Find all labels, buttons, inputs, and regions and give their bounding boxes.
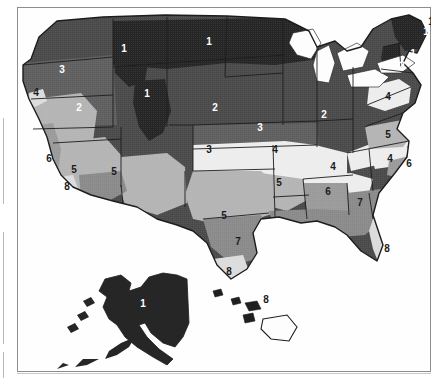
zone-label-arkansas-5: 5 [276, 177, 282, 188]
zone-label-pacific-northwest-3: 3 [59, 64, 65, 75]
zone-label-hawaii-8: 8 [263, 294, 269, 305]
zone-label-gulfcoast-8: 8 [226, 266, 232, 277]
zone-label-wyoming-1: 1 [144, 88, 150, 99]
zone-label-missouri-4: 4 [272, 144, 278, 155]
zone-label-nebraska-2: 2 [212, 102, 218, 113]
zone-label-illinois-2: 2 [321, 109, 327, 120]
zone-label-kentucky-4: 4 [330, 161, 336, 172]
zone-label-alabama-6: 6 [325, 186, 331, 197]
scan-artifact-line [3, 118, 4, 204]
zone-label-newengland-1: 1 [410, 48, 416, 59]
zone-label-newmexico-5: 5 [111, 166, 117, 177]
zone-label-kansas-3: 3 [257, 122, 263, 133]
scan-artifact-line [3, 352, 4, 378]
zone-label-georgia-7: 7 [357, 197, 363, 208]
zone-label-virginia-5: 5 [385, 129, 391, 140]
zone-label-montana-dakota-1: 1 [206, 36, 212, 47]
hawaii-inset [213, 289, 297, 341]
zone-label-alaska-1: 1 [140, 298, 146, 309]
zone-label-southtexas-7: 7 [235, 236, 241, 247]
zone-label-colorado-3: 3 [206, 144, 212, 155]
figure-page: 311111122224433454466555867578818 [0, 0, 440, 386]
zone-label-socal-8: 8 [64, 181, 70, 192]
zone-label-carolina-6: 6 [406, 158, 412, 169]
zone-label-northcarolina-4: 4 [387, 153, 393, 164]
zone-label-arizona-5: 5 [71, 164, 77, 175]
us-climate-zone-map: 311111122224433454466555867578818 [17, 7, 431, 372]
scan-artifact-line [3, 232, 4, 344]
zone-label-texas-5: 5 [221, 210, 227, 221]
zone-label-norcal-4: 4 [33, 87, 39, 98]
zone-label-florida-8: 8 [384, 243, 390, 254]
zone-label-nevada-2: 2 [76, 102, 82, 113]
zone-label-pennsylvania-4: 4 [385, 91, 391, 102]
zone-label-idaho-1: 1 [121, 43, 127, 54]
zone-label-maine-1: 1 [423, 26, 429, 37]
zone-label-california-6: 6 [46, 153, 52, 164]
zone-label-newyork-2: 2 [399, 60, 405, 71]
alaska-inset [57, 273, 189, 369]
